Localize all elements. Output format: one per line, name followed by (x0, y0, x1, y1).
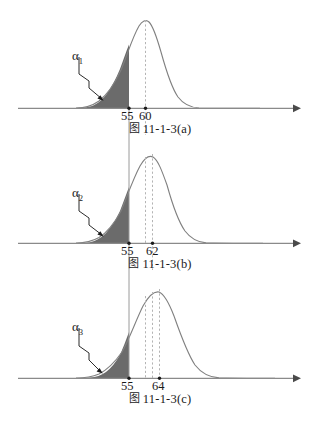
x-axis-arrowhead-c (293, 374, 301, 382)
caption-cjk-icon-a: 图 (129, 122, 140, 135)
figure-panel-c: α3 55 64 (0, 270, 320, 405)
panel-a-plot (0, 0, 320, 135)
x-axis-arrowhead-a (293, 104, 301, 112)
distribution-curve-c (76, 292, 275, 378)
caption-cjk-icon-b: 图 (128, 257, 139, 270)
caption-text-b: 11-1-3(b) (142, 257, 191, 271)
alpha-label-c: α3 (72, 319, 83, 337)
distribution-curve-b (76, 156, 263, 243)
figure-container: α1 55 60 图11-1-3(a) α2 55 6 (0, 0, 320, 425)
figure-panel-b: α2 55 62 (0, 135, 320, 270)
shaded-tail-region-c (76, 332, 129, 378)
x-axis-arrowhead-b (293, 239, 301, 247)
figure-caption-c: 图11-1-3(c) (0, 390, 320, 407)
figure-panel-a: α1 55 60 (0, 0, 320, 135)
distribution-curve-a (76, 21, 260, 109)
caption-text-c: 11-1-3(c) (143, 392, 192, 406)
alpha-label-a: α1 (72, 48, 83, 66)
caption-text-a: 11-1-3(a) (143, 122, 192, 136)
caption-cjk-icon-c: 图 (129, 392, 140, 405)
alpha-label-b: α2 (72, 185, 83, 203)
panel-b-plot (0, 135, 320, 270)
